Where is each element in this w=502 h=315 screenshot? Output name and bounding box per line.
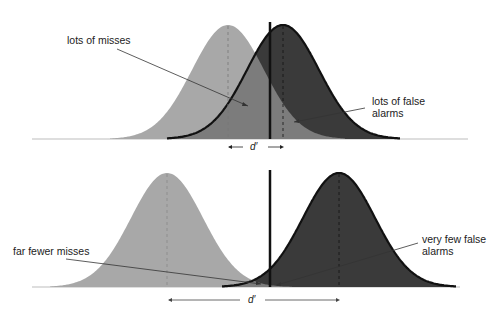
bottom-noise-distribution xyxy=(50,173,292,287)
bottom-panel xyxy=(32,170,460,302)
top-dprime-label: d′ xyxy=(250,141,257,152)
bottom-false-alarms-label: very few false alarms xyxy=(422,233,486,257)
bottom-dprime-label: d′ xyxy=(248,294,255,305)
top-dprime-arrowhead-left xyxy=(228,145,232,149)
bottom-misses-label: far fewer misses xyxy=(13,245,89,257)
top-misses-label: lots of misses xyxy=(67,34,131,46)
signal-detection-diagram xyxy=(0,0,502,315)
top-dprime-arrowhead-right xyxy=(280,145,284,149)
bottom-dprime-arrowhead-left xyxy=(168,298,172,302)
bottom-dprime-arrowhead-right xyxy=(336,298,340,302)
top-false-alarms-label: lots of false alarms xyxy=(372,95,425,119)
